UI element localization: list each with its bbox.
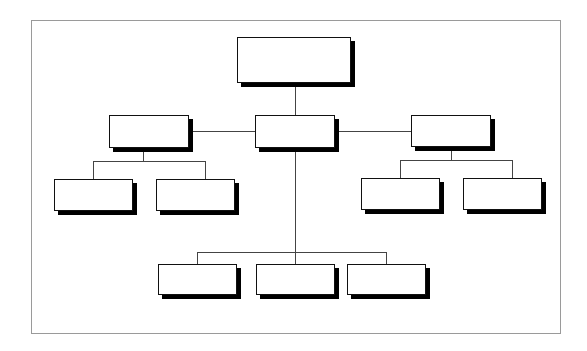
org-node-label [238,38,350,82]
org-node-label [257,265,334,294]
org-node-l2-left[interactable] [109,115,189,148]
org-node-root[interactable] [237,37,351,83]
connector-vertical [386,252,387,264]
org-node-label [464,179,541,209]
org-node-label [362,179,439,209]
connector-horizontal [189,131,255,132]
org-node-l2-center[interactable] [255,115,335,148]
connector-horizontal [93,161,205,162]
connector-vertical [400,160,401,178]
org-node-label [159,265,236,294]
org-node-l4-a[interactable] [158,264,237,295]
connector-vertical [295,148,296,264]
org-node-label [256,116,334,147]
connector-vertical [143,148,144,161]
connector-horizontal [335,131,411,132]
org-node-l3-right-b[interactable] [463,178,542,210]
connector-vertical [93,161,94,179]
connector-vertical [451,147,452,160]
connector-horizontal [197,252,387,253]
org-node-label [157,180,234,210]
connector-horizontal [400,160,512,161]
org-node-l4-c[interactable] [347,264,426,295]
org-node-l3-left-b[interactable] [156,179,235,211]
connector-vertical [197,252,198,264]
org-node-label [412,116,490,146]
connector-vertical [205,161,206,179]
org-node-label [55,180,132,210]
connector-vertical [512,160,513,178]
org-node-label [110,116,188,147]
org-node-l3-right-a[interactable] [361,178,440,210]
connector-vertical [295,83,296,115]
org-node-l2-right[interactable] [411,115,491,147]
org-node-label [348,265,425,294]
org-node-l4-b[interactable] [256,264,335,295]
org-node-l3-left-a[interactable] [54,179,133,211]
